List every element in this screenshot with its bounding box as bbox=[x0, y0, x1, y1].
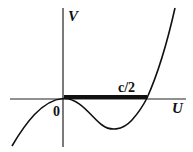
segment-label: c/2 bbox=[118, 80, 135, 95]
v-axis-label: V bbox=[68, 8, 80, 24]
u-axis-label: U bbox=[172, 100, 184, 116]
potential-diagram: V 0 c/2 U bbox=[0, 0, 193, 152]
potential-curve bbox=[12, 8, 175, 146]
origin-label: 0 bbox=[53, 104, 60, 119]
